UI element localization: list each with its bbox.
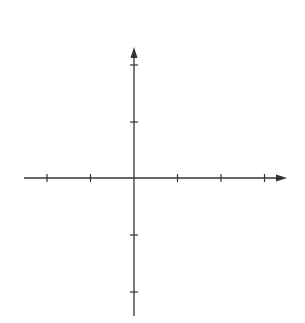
chart bbox=[0, 0, 305, 323]
y-axis-arrow-icon bbox=[131, 47, 138, 58]
x-axis-arrow-icon bbox=[276, 175, 287, 182]
